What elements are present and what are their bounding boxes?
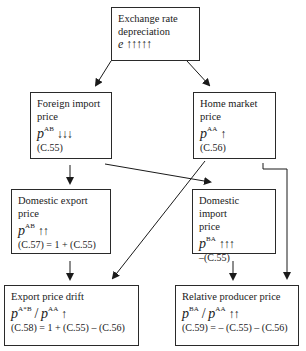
node-relative-producer-price: Relative producer price pBA / pAA ↑↑ (C.… [175,285,299,346]
node-export-price-drift: Export price drift pA*B / pAA ↑ (C.58) =… [4,285,139,346]
node-symbol-line: pAB ↑↑ [18,220,104,238]
up-arrows-icon: ↑↑ [38,224,48,238]
node-foreign-import-price: Foreign import price pAB ↓↓↓ (C.55) [30,92,112,159]
node-exchange-rate-depreciation: Exchange rate depreciation e ↑↑↑↑↑ [111,7,200,61]
up-arrows-icon: ↑↑↑ [219,237,234,251]
node-home-market-price: Home market price pAA ↑ (C.56) [193,92,276,159]
symbol-denominator: p [41,306,48,321]
symbol: p [37,126,44,141]
symbol: e [118,37,123,51]
superscript: AB [25,222,35,230]
divider: / [34,306,38,321]
node-symbol-line: pA*B / pAA ↑ [11,303,132,321]
node-title: Export price drift [11,290,132,303]
node-domestic-export-price: Domestic export price pAB ↑↑ (C.57) = 1 … [11,189,111,254]
superscript: BA [206,235,216,243]
edge-foreign-to-domestic-import [105,164,210,182]
symbol-numerator: p [182,306,189,321]
equation: –(C.55) [199,251,269,264]
equation: (C.57) = 1 + (C.55) [18,238,104,251]
node-title: price [200,110,269,123]
superscript: AA [207,125,218,133]
node-title: Domestic export [18,194,104,207]
edge-exchange-to-home [187,61,209,85]
superscript: AB [44,125,54,133]
equation: (C.58) = 1 + (C.55) – (C.56) [11,321,132,334]
up-arrows-icon: ↑↑↑↑↑ [126,37,151,51]
equation: (C.55) [37,141,105,154]
node-symbol-line: pBA / pAA ↑↑ [182,303,292,321]
node-title: price [199,220,269,233]
equation: (C.59) = – (C.55) – (C.56) [182,321,292,334]
superscript-denominator: AA [215,305,226,313]
node-title: price [37,110,105,123]
node-title: Foreign import [37,97,105,110]
node-title: Domestic import [199,194,269,220]
node-domestic-import-price: Domestic import price pBA ↑↑↑ –(C.55) [192,189,276,254]
node-title: price [18,207,104,220]
symbol: p [199,236,206,251]
superscript-denominator: AA [48,305,59,313]
node-title: Home market [200,97,269,110]
node-symbol-line: pAB ↓↓↓ [37,123,105,141]
node-symbol-line: e ↑↑↑↑↑ [118,38,193,51]
up-arrows-icon: ↑↑ [228,307,238,321]
superscript-numerator: A*B [18,305,32,313]
up-arrows-icon: ↑ [220,127,225,141]
symbol: p [200,126,207,141]
down-arrows-icon: ↓↓↓ [57,127,72,141]
edge-exchange-to-foreign [96,61,111,85]
symbol: p [18,223,25,238]
superscript-numerator: BA [189,305,199,313]
up-arrows-icon: ↑ [61,307,66,321]
node-title: Relative producer price [182,290,292,303]
symbol-numerator: p [11,306,18,321]
node-symbol-line: pAA ↑ [200,123,269,141]
node-symbol-line: pBA ↑↑↑ [199,233,269,251]
node-title: Exchange rate [118,12,193,25]
divider: / [202,306,206,321]
equation: (C.56) [200,141,269,154]
